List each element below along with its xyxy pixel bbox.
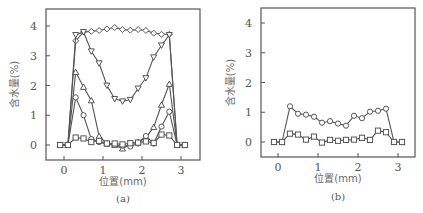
chart-panel-a: 012340123含水量(%)位置(mm)(a) [0,0,211,213]
y-tick-label: 4 [245,17,252,30]
square-marker-icon [136,140,141,145]
square-marker-icon [351,137,356,142]
square-marker-icon [303,137,308,142]
square-marker-icon [151,140,156,145]
x-tick-label: 0 [61,164,68,177]
series-square [271,128,404,145]
square-marker-icon [279,139,284,144]
square-marker-icon [343,137,348,142]
square-marker-icon [359,135,364,140]
y-tick-label: 0 [245,136,252,149]
square-marker-icon [175,142,180,147]
square-marker-icon [159,132,164,137]
series-square [58,132,188,148]
circle-marker-icon [303,112,308,117]
panel-sublabel: (b) [331,191,345,202]
triangle-up-marker-icon [159,102,165,107]
triangle-up-marker-icon [88,97,94,102]
square-marker-icon [89,139,94,144]
circle-marker-icon [167,109,172,114]
x-tick-label: 3 [395,161,402,174]
circle-marker-icon [287,104,292,109]
square-marker-icon [375,128,380,133]
y-tick-label: 3 [245,47,252,60]
x-axis-label: 位置(mm) [99,175,146,187]
triangle-down-marker-icon [73,33,79,38]
square-marker-icon [383,130,388,135]
diamond-marker-icon [143,27,149,33]
triangle-down-marker-icon [88,49,94,54]
triangle-down-marker-icon [151,55,157,60]
x-tick-label: 0 [275,161,282,174]
square-marker-icon [81,136,86,141]
square-marker-icon [65,142,70,147]
circle-marker-icon [383,106,388,111]
y-tick-label: 0 [30,139,37,152]
square-marker-icon [73,135,78,140]
triangle-up-marker-icon [81,84,87,89]
diamond-marker-icon [96,27,102,33]
square-marker-icon [287,131,292,136]
triangle-up-marker-icon [151,124,157,129]
square-marker-icon [367,137,372,142]
series-line [60,32,185,145]
diamond-marker-icon [112,24,118,30]
series-triangle-down [57,30,188,148]
circle-marker-icon [343,123,348,128]
square-marker-icon [335,138,340,143]
square-marker-icon [399,139,404,144]
square-marker-icon [391,139,396,144]
square-marker-icon [143,139,148,144]
square-marker-icon [128,141,133,146]
triangle-down-marker-icon [120,99,126,104]
square-marker-icon [271,139,276,144]
square-marker-icon [311,134,316,139]
circle-marker-icon [335,121,340,126]
square-marker-icon [319,140,324,145]
circle-marker-icon [327,119,332,124]
circle-marker-icon [351,113,356,118]
y-tick-label: 2 [245,77,252,90]
square-marker-icon [120,142,125,147]
y-axis-label: 含水量(%) [8,61,20,108]
circle-marker-icon [81,113,86,118]
square-marker-icon [97,138,102,143]
x-axis-label: 位置(mm) [314,172,361,184]
triangle-down-marker-icon [96,61,102,66]
y-axis-label: 含水量(%) [224,59,236,106]
circle-marker-icon [159,124,164,129]
square-marker-icon [167,133,172,138]
triangle-down-marker-icon [104,83,110,88]
y-tick-label: 3 [30,50,37,63]
x-tick-label: 3 [178,164,185,177]
circle-marker-icon [367,109,372,114]
square-marker-icon [58,142,63,147]
series-line [60,72,185,149]
circle-marker-icon [143,133,148,138]
y-tick-label: 4 [30,20,37,33]
diamond-marker-icon [120,27,126,33]
diamond-marker-icon [127,27,133,33]
y-tick-label: 1 [245,106,252,119]
y-tick-label: 1 [30,109,37,122]
chart-b-plot: 012340123含水量(%)位置(mm)(b) [212,0,423,213]
square-marker-icon [182,142,187,147]
square-marker-icon [327,137,332,142]
circle-marker-icon [319,120,324,125]
diamond-marker-icon [135,27,141,33]
square-marker-icon [112,141,117,146]
square-marker-icon [295,132,300,137]
square-marker-icon [104,141,109,146]
y-tick-label: 2 [30,80,37,93]
chart-panel-b: 012340123含水量(%)位置(mm)(b) [212,0,423,213]
circle-marker-icon [73,95,78,100]
chart-a-plot: 012340123含水量(%)位置(mm)(a) [0,0,211,213]
diamond-marker-icon [104,26,110,32]
diamond-marker-icon [151,30,157,36]
circle-marker-icon [295,111,300,116]
circle-marker-icon [359,116,364,121]
panel-sublabel: (a) [116,193,130,204]
triangle-up-marker-icon [96,133,102,138]
diamond-marker-icon [88,28,94,34]
triangle-up-marker-icon [166,81,172,86]
